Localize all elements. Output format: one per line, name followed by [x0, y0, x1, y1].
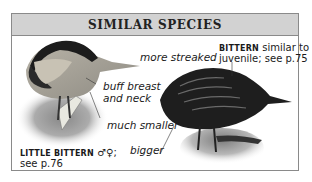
sex-symbols: ♂♀;	[97, 147, 117, 158]
bittern-text-1: similar to	[262, 42, 309, 53]
bittern-name: BITTERN	[219, 44, 259, 53]
annotation-more-streaked: more streaked	[140, 51, 217, 63]
little-bittern-page-ref: see p.76	[20, 158, 63, 170]
annotation-much-smaller: much smaller	[107, 119, 178, 131]
annotation-buff-breast: buff breast	[103, 80, 161, 92]
annotation-and-neck: and neck	[103, 92, 151, 104]
bittern-page-ref: juvenile; see p.75	[219, 53, 308, 65]
annotation-bigger: bigger	[130, 144, 164, 156]
little-bittern-name: LITTLE BITTERN	[20, 149, 94, 158]
bittern-illustration	[160, 62, 292, 168]
